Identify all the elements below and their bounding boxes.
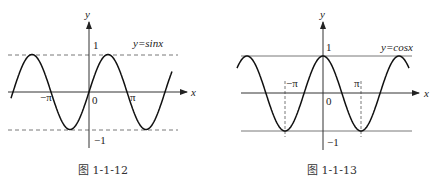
tick-label-pi: π xyxy=(354,77,360,89)
tick-label-pi: π xyxy=(130,91,136,103)
tick-label-one: 1 xyxy=(93,39,99,51)
figure-caption: 图 1-1-13 xyxy=(307,164,357,177)
sine-graph: y x 1 −1 0 −π π y=sinx 图 1-1-12 xyxy=(8,8,196,177)
x-axis-label: x xyxy=(190,86,196,98)
tick-label-neg-pi: −π xyxy=(40,91,52,103)
y-axis-label: y xyxy=(84,8,90,20)
tick-label-neg-pi: −π xyxy=(286,77,298,89)
tick-label-neg-one: −1 xyxy=(327,136,339,148)
figure-canvas: y x 1 −1 0 −π π y=sinx 图 1-1-12 y x 1 −1… xyxy=(0,0,433,183)
function-label: y=cosx xyxy=(380,41,413,53)
y-axis-label: y xyxy=(319,8,325,20)
origin-label: 0 xyxy=(326,95,332,107)
figure-caption: 图 1-1-12 xyxy=(78,164,128,177)
function-label: y=sinx xyxy=(132,37,163,49)
cosine-graph: y x 1 −1 0 −π π y=cosx 图 1-1-13 xyxy=(237,8,429,177)
tick-label-one: 1 xyxy=(326,41,332,53)
origin-label: 0 xyxy=(92,94,98,106)
x-axis-label: x xyxy=(423,87,429,99)
tick-label-neg-one: −1 xyxy=(94,134,106,146)
